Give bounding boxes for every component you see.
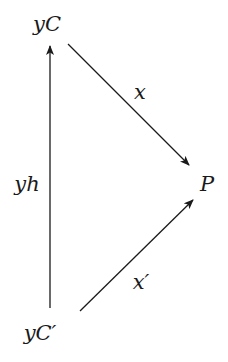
edge-x-label: x: [134, 82, 146, 103]
commutative-diagram: yC P yC′ yh x x′: [0, 0, 228, 362]
node-p-label: P: [200, 174, 214, 195]
edge-x-prime-label: x′: [133, 272, 150, 293]
edge-yh-label: yh: [14, 174, 39, 195]
arrow-x-prime: [80, 200, 193, 311]
arrow-x: [68, 44, 189, 165]
node-yc-prime-label: yC′: [24, 323, 57, 344]
node-yc-label: yC: [33, 14, 61, 35]
